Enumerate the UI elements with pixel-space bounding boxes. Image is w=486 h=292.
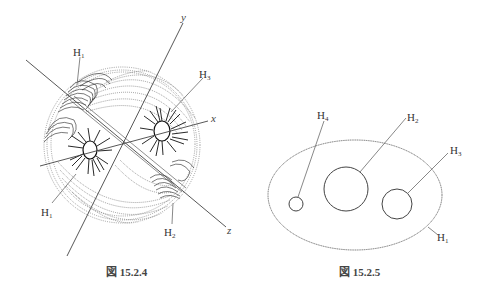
label-h2: H2 bbox=[407, 111, 419, 125]
figure-canvas: y x z H1 H3 H1 H2 H4 H2 H3 H1 bbox=[0, 0, 486, 292]
label-h1-top: H1 bbox=[73, 46, 85, 60]
pole-h3 bbox=[140, 106, 188, 156]
label-h4: H4 bbox=[317, 109, 329, 123]
hole-h4 bbox=[289, 197, 303, 211]
label-h1: H1 bbox=[437, 231, 449, 245]
label-h3: H3 bbox=[199, 68, 211, 82]
hole-h2 bbox=[324, 167, 368, 211]
hole-h3 bbox=[382, 189, 412, 219]
pole-h1 bbox=[68, 128, 112, 176]
outer-boundary-h1 bbox=[268, 140, 442, 250]
label-h3: H3 bbox=[450, 144, 462, 158]
label-h2: H2 bbox=[164, 226, 176, 240]
y-axis-label: y bbox=[180, 11, 186, 23]
x-axis-label: x bbox=[210, 112, 216, 124]
caption-left: 図 15.2.4 bbox=[106, 263, 147, 279]
caption-right: 図 15.2.5 bbox=[339, 263, 380, 279]
z-axis-label: z bbox=[226, 224, 232, 236]
label-h1-bottom: H1 bbox=[41, 206, 53, 220]
axes bbox=[26, 23, 226, 256]
ellipse-diagram: H4 H2 H3 H1 bbox=[268, 109, 462, 250]
sphere-diagram: y x z H1 H3 H1 H2 bbox=[26, 11, 232, 256]
